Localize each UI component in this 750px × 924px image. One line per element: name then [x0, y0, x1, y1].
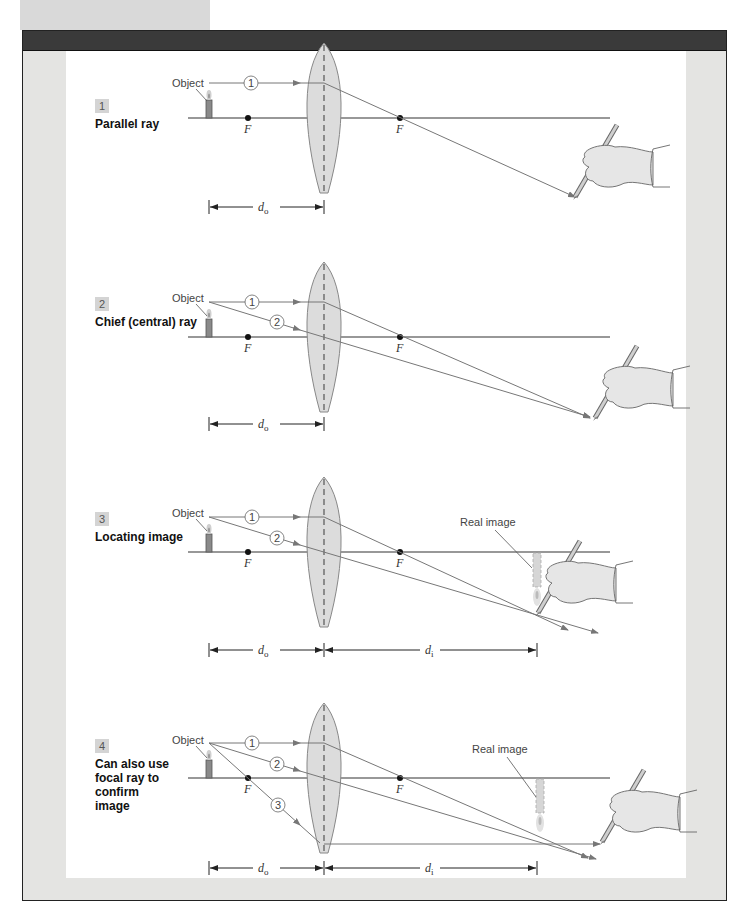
candle-object-icon [206, 90, 212, 118]
hand-pencil-icon [593, 346, 690, 421]
ray-1-badge: 1 [248, 77, 254, 89]
ray-2-badge: 2 [274, 758, 280, 770]
real-image-label: Real image [460, 516, 516, 528]
focal-label-left: F [243, 341, 252, 355]
diagram-step-2: Object F F 1 2 do [172, 262, 690, 433]
candle-object-icon [206, 750, 212, 778]
object-distance-label: do [258, 861, 269, 877]
image-distance-label: di [425, 643, 434, 659]
real-image-icon [536, 779, 544, 832]
ray-1-badge: 1 [249, 511, 255, 523]
ray-2-badge: 2 [274, 316, 280, 328]
object-label: Object [172, 292, 204, 304]
ray-1-badge: 1 [249, 296, 255, 308]
object-distance-label: do [258, 417, 269, 433]
focal-label-left: F [243, 556, 252, 570]
object-label: Object [172, 507, 204, 519]
hand-pencil-icon [600, 770, 697, 845]
ray-diagram: Object F F 1 do Object F F 1 [0, 0, 750, 924]
ray-1-badge: 1 [249, 737, 255, 749]
object-label: Object [172, 734, 204, 746]
lens-icon [307, 43, 341, 193]
focal-label-right: F [395, 556, 404, 570]
real-image-icon [533, 553, 541, 606]
diagram-step-1: Object F F 1 do [172, 43, 670, 216]
real-image-label: Real image [472, 743, 528, 755]
focal-label-right: F [395, 122, 404, 136]
object-distance-label: do [258, 200, 269, 216]
ray-3-badge: 3 [275, 799, 281, 811]
diagram-step-4: Object F F 1 2 3 Real image do [172, 703, 697, 877]
diagram-step-3: Object F F 1 2 Real image do di [172, 477, 633, 659]
focal-label-left: F [243, 782, 252, 796]
object-label: Object [172, 77, 204, 89]
ray-2-badge: 2 [274, 532, 280, 544]
focal-point-left [245, 115, 251, 121]
candle-object-icon [206, 524, 212, 552]
object-distance-label: do [258, 643, 269, 659]
focal-label-right: F [395, 341, 404, 355]
focal-label-right: F [395, 782, 404, 796]
hand-pencil-icon [573, 125, 670, 200]
image-distance-label: di [425, 861, 434, 877]
candle-object-icon [206, 309, 212, 337]
focal-label-left: F [243, 122, 252, 136]
